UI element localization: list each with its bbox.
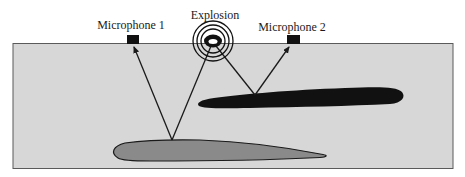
microphone-1-icon (127, 35, 139, 44)
microphone-2-label: Microphone 2 (258, 21, 326, 33)
explosion-label: Explosion (191, 9, 240, 21)
diagram-canvas (0, 0, 465, 177)
microphone-1-label: Microphone 1 (97, 19, 165, 31)
microphone-2-icon (287, 35, 300, 44)
seismic-reflection-diagram: Microphone 1 Explosion Microphone 2 (0, 0, 465, 177)
